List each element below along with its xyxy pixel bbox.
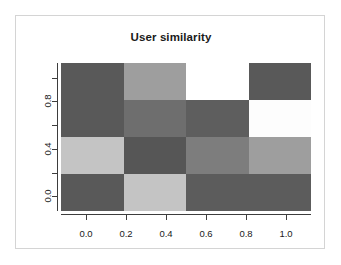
x-axis-tick [206,215,207,220]
heatmap-cell [186,137,249,174]
figure-frame: User similarity 0.00.40.8 0.00.20.40.60.… [15,15,325,249]
heatmap-cell [249,174,312,211]
y-axis-tick [52,173,57,174]
x-axis-tick-label: 0.2 [119,229,132,239]
y-axis-tick [52,125,57,126]
x-axis-tick-label: 0.8 [239,229,252,239]
heatmap-cell [249,63,312,100]
heatmap-cell [124,137,187,174]
y-axis-tick-label: 0.4 [43,142,53,155]
heatmap-plot-panel[interactable]: 0.00.40.8 0.00.20.40.60.81.0 [61,63,311,211]
heatmap-cell [249,100,312,137]
y-axis-line [57,63,58,211]
x-axis-line [61,214,311,215]
heatmap-cell [124,63,187,100]
heatmap-cell [249,137,312,174]
x-axis-tick [166,215,167,220]
heatmap-cell [61,137,124,174]
heatmap-cell [186,63,249,100]
heatmap-cell [124,174,187,211]
y-axis-tick-label: 0.8 [43,95,53,108]
y-axis-tick [52,78,57,79]
y-axis-tick-label: 0.0 [43,190,53,203]
page-title: User similarity [16,31,326,43]
heatmap-cell [61,174,124,211]
heatmap-cell [186,100,249,137]
x-axis-tick-label: 0.6 [199,229,212,239]
x-axis-tick-label: 1.0 [279,229,292,239]
x-axis-tick [246,215,247,220]
heatmap-cell [61,63,124,100]
heatmap-grid [61,63,311,211]
x-axis-tick-label: 0.0 [79,229,92,239]
x-axis-tick [286,215,287,220]
heatmap-cell [186,174,249,211]
x-axis-tick [86,215,87,220]
heatmap-cell [124,100,187,137]
x-axis-tick-label: 0.4 [159,229,172,239]
heatmap-cell [61,100,124,137]
x-axis-tick [126,215,127,220]
